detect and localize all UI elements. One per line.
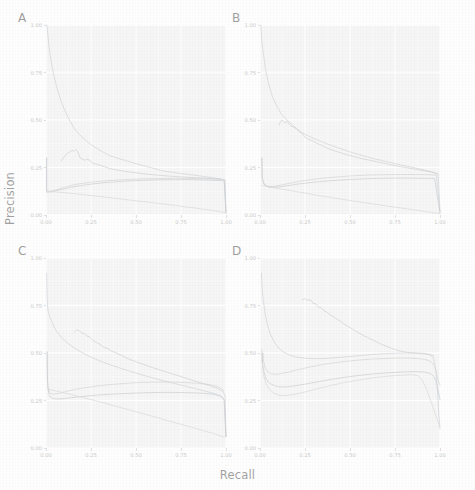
curve-d-curve-4 [262, 353, 440, 428]
y-tick-label: 0.25 [236, 398, 256, 404]
x-tick-mark [350, 448, 351, 451]
x-tick-mark [305, 448, 306, 451]
y-tick-mark [258, 353, 261, 354]
x-tick-mark [440, 448, 441, 451]
y-tick-mark [258, 305, 261, 306]
x-tick-label: 0.75 [383, 452, 407, 458]
y-tick-label: 1.00 [236, 255, 256, 261]
y-tick-mark [258, 258, 261, 259]
curve-d-curve-3 [262, 353, 440, 400]
x-tick-label: 0.00 [248, 452, 272, 458]
curve-d-curve-5-bumpy [302, 299, 433, 356]
x-tick-label: 0.50 [338, 452, 362, 458]
panel-d: D0.000.250.500.751.000.000.250.500.751.0… [0, 0, 475, 490]
x-tick-mark [260, 448, 261, 451]
curve-d-curve-1 [261, 273, 440, 428]
y-tick-mark [258, 400, 261, 401]
x-tick-label: 0.25 [293, 452, 317, 458]
y-tick-label: 0.00 [236, 445, 256, 451]
y-tick-label: 0.75 [236, 303, 256, 309]
curves-d [0, 0, 475, 490]
x-tick-label: 1.00 [428, 452, 452, 458]
y-tick-label: 0.50 [236, 350, 256, 356]
x-tick-mark [395, 448, 396, 451]
precision-recall-figure: Precision Recall A0.000.250.500.751.000.… [0, 0, 475, 490]
